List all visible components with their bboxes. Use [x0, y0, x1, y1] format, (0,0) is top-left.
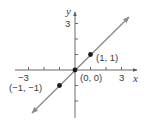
x-tick-label-3: 3	[119, 72, 124, 83]
x-axis-label: x	[132, 72, 138, 84]
line-y-equals-x	[32, 17, 129, 113]
y-tick-label-3: 3	[65, 18, 70, 29]
point-label-origin: (0, 0)	[80, 72, 102, 83]
graph-canvas: y 3 x −3 3 (0, 0) (1, 1) (−1, −1)	[0, 0, 148, 120]
point-origin	[73, 68, 78, 73]
point-one	[88, 52, 93, 57]
y-axis-label: y	[65, 5, 71, 17]
point-label-neg-one: (−1, −1)	[9, 82, 42, 93]
point-neg-one	[57, 83, 62, 88]
point-label-one: (1, 1)	[96, 52, 118, 63]
